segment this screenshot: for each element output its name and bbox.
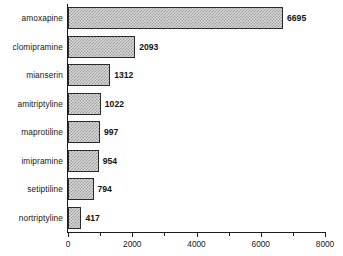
x-tick-major bbox=[68, 233, 69, 237]
bar-value-label: 1312 bbox=[114, 70, 133, 80]
bar: 1022 bbox=[68, 93, 101, 115]
x-tick-label: 4000 bbox=[187, 239, 205, 249]
bar-row: imipramine954 bbox=[68, 147, 325, 176]
x-tick-label: 2000 bbox=[123, 239, 141, 249]
category-label: amitriptyline bbox=[17, 99, 63, 109]
bar: 1312 bbox=[68, 64, 110, 86]
bar: 2093 bbox=[68, 36, 135, 58]
bar: 794 bbox=[68, 178, 94, 200]
category-label: mianserin bbox=[26, 70, 63, 80]
x-tick-major bbox=[261, 233, 262, 237]
x-tick-minor bbox=[293, 233, 294, 236]
category-label: amoxapine bbox=[22, 13, 64, 23]
category-label: nortriptyline bbox=[19, 213, 63, 223]
category-label: imipramine bbox=[21, 156, 63, 166]
bar-value-label: 6695 bbox=[287, 13, 306, 23]
x-tick-label: 0 bbox=[66, 239, 71, 249]
x-tick-label: 6000 bbox=[252, 239, 270, 249]
bar-value-label: 2093 bbox=[139, 42, 158, 52]
bar-value-label: 794 bbox=[98, 184, 112, 194]
bar-row: amitriptyline1022 bbox=[68, 90, 325, 119]
bar-row: maprotiline997 bbox=[68, 118, 325, 147]
x-tick-major bbox=[197, 233, 198, 237]
bar: 417 bbox=[68, 207, 81, 229]
x-tick-minor bbox=[164, 233, 165, 236]
bar-row: amoxapine6695 bbox=[68, 4, 325, 33]
x-tick-major bbox=[132, 233, 133, 237]
bar-row: mianserin1312 bbox=[68, 61, 325, 90]
x-tick-label: 8000 bbox=[316, 239, 334, 249]
bar: 954 bbox=[68, 150, 99, 172]
category-label: setiptiline bbox=[27, 184, 63, 194]
bar-chart: amoxapine6695clomipramine2093mianserin13… bbox=[0, 0, 343, 256]
bar-value-label: 1022 bbox=[105, 99, 124, 109]
bar-value-label: 417 bbox=[85, 213, 99, 223]
bar: 997 bbox=[68, 121, 100, 143]
bar: 6695 bbox=[68, 7, 283, 29]
bar-row: setiptiline794 bbox=[68, 175, 325, 204]
bar-value-label: 997 bbox=[104, 127, 118, 137]
bar-row: clomipramine2093 bbox=[68, 33, 325, 62]
x-tick-minor bbox=[229, 233, 230, 236]
category-label: clomipramine bbox=[12, 42, 63, 52]
bar-value-label: 954 bbox=[103, 156, 117, 166]
plot-area: amoxapine6695clomipramine2093mianserin13… bbox=[68, 4, 325, 232]
bar-row: nortriptyline417 bbox=[68, 204, 325, 233]
x-tick-major bbox=[325, 233, 326, 237]
x-tick-minor bbox=[100, 233, 101, 236]
category-label: maprotiline bbox=[21, 127, 63, 137]
